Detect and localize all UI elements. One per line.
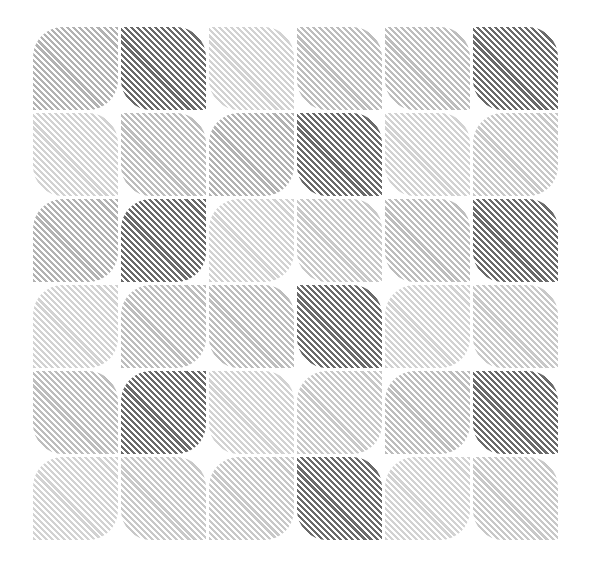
pattern-tile [297,27,382,110]
pattern-tile [297,199,382,282]
hatched-tile-pattern [33,27,558,540]
pattern-tile [33,285,118,368]
pattern-tile [209,371,294,454]
pattern-tile [33,457,118,540]
pattern-tile [33,371,118,454]
pattern-tile [473,113,558,196]
pattern-tile [385,27,470,110]
pattern-tile [297,457,382,540]
pattern-tile [209,285,294,368]
pattern-tile [121,199,206,282]
pattern-tile [473,371,558,454]
pattern-tile [473,457,558,540]
pattern-tile [385,199,470,282]
pattern-tile [385,457,470,540]
pattern-tile [121,285,206,368]
pattern-tile [385,285,470,368]
pattern-tile [209,113,294,196]
pattern-tile [121,457,206,540]
pattern-tile [297,285,382,368]
pattern-tile [33,27,118,110]
pattern-tile [385,113,470,196]
pattern-tile [121,371,206,454]
pattern-tile [473,27,558,110]
pattern-tile [209,457,294,540]
pattern-tile [121,113,206,196]
pattern-tile [33,199,118,282]
pattern-tile [209,199,294,282]
pattern-tile [385,371,470,454]
pattern-tile [33,113,118,196]
pattern-tile [209,27,294,110]
pattern-tile [297,371,382,454]
pattern-tile [121,27,206,110]
pattern-tile [297,113,382,196]
pattern-tile [473,199,558,282]
pattern-tile [473,285,558,368]
